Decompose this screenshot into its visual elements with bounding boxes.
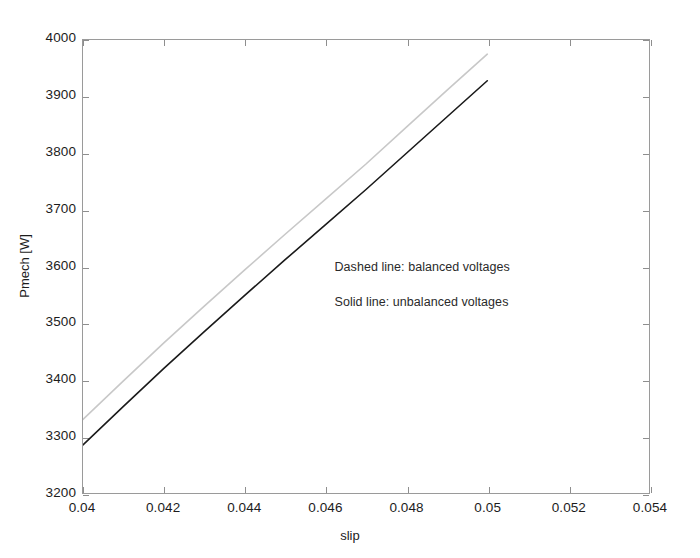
y-tick-label: 3700: [46, 201, 76, 216]
y-axis-label-container: Pmech [W]: [13, 0, 35, 558]
x-tick-label: 0.042: [146, 500, 180, 515]
y-tick-label: 3200: [46, 485, 76, 500]
y-tick-label: 3400: [46, 371, 76, 386]
x-tick-mark: [651, 40, 652, 46]
figure-canvas: Pmech [W] 320033003400350036003700380039…: [0, 0, 700, 558]
series-line: [83, 54, 487, 419]
x-tick-label: 0.052: [552, 500, 586, 515]
y-tick-label: 3600: [46, 258, 76, 273]
x-axis-label: slip: [0, 528, 700, 543]
plot-annotation-text: Dashed line: balanced voltages: [335, 260, 510, 274]
x-tick-label: 0.05: [474, 500, 501, 515]
y-tick-mark: [643, 495, 649, 496]
x-tick-label: 0.048: [389, 500, 423, 515]
x-tick-label: 0.046: [308, 500, 342, 515]
x-tick-mark: [651, 487, 652, 493]
y-axis-label: Pmech [W]: [17, 234, 32, 298]
y-tick-mark: [83, 495, 89, 496]
plot-area: Dashed line: balanced voltagesSolid line…: [82, 39, 650, 494]
plot-annotation-text: Solid line: unbalanced voltages: [335, 295, 509, 309]
y-tick-label: 3500: [46, 314, 76, 329]
y-tick-label: 4000: [46, 30, 76, 45]
y-tick-label: 3300: [46, 428, 76, 443]
x-tick-label: 0.04: [69, 500, 96, 515]
x-tick-label: 0.054: [633, 500, 667, 515]
y-tick-label: 3900: [46, 87, 76, 102]
y-tick-label: 3800: [46, 144, 76, 159]
x-tick-label: 0.044: [227, 500, 261, 515]
